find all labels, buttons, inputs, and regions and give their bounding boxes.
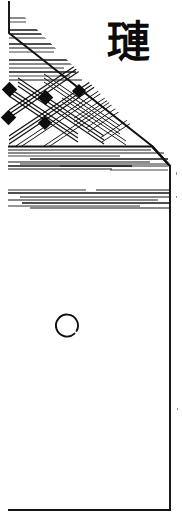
line-drawing-canvas: [0, 0, 182, 521]
character-label: 璉: [99, 17, 157, 67]
paper-background: [0, 0, 182, 521]
artifact-figure: 璉: [0, 0, 182, 521]
